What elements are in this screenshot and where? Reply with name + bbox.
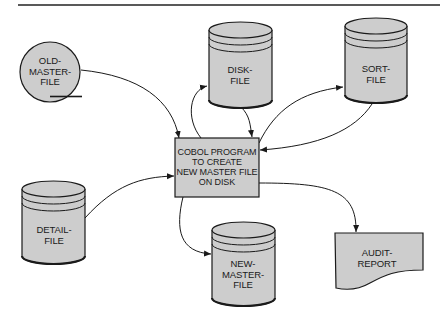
edge-detail-to-program — [85, 176, 174, 218]
disk-file-label: DISK- FILE — [228, 65, 253, 86]
new-master-file-label: NEW- MASTER- FILE — [222, 259, 264, 291]
edge-old-master-to-program — [81, 70, 179, 138]
edge-program-to-audit-report — [259, 183, 356, 232]
edge-disk-to-program — [241, 107, 252, 137]
sort-file-label: SORT- FILE — [362, 64, 390, 85]
edge-program-to-disk — [191, 86, 207, 138]
audit-report-label: AUDIT- REPORT — [358, 248, 397, 269]
edge-sort-to-program — [260, 104, 372, 150]
sort-file-cylinder — [345, 18, 407, 103]
cobol-program-label: COBOL PROGRAM TO CREATE NEW MASTER FILE … — [176, 147, 257, 187]
detail-file-label: DETAIL- FILE — [36, 225, 71, 246]
edge-program-to-new-master — [180, 197, 211, 254]
old-master-file-label: OLD- MASTER- FILE — [29, 56, 71, 88]
detail-file-cylinder — [22, 181, 85, 264]
